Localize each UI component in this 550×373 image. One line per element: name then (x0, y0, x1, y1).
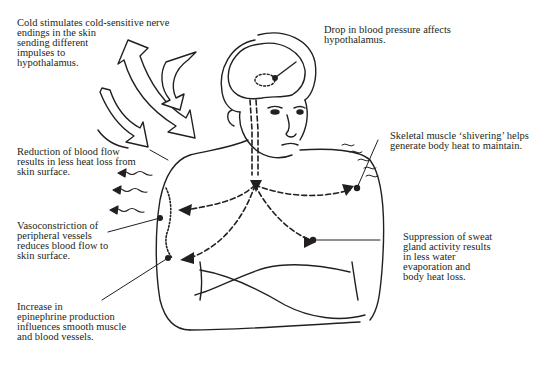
label-vasoconstriction: Vasoconstriction of peripheral vessels r… (17, 221, 108, 261)
label-shivering: Skeletal muscle ‘shivering’ helps genera… (390, 131, 529, 151)
torso-icon (156, 140, 383, 330)
label-reduced-blood-flow: Reduction of blood flow results in less … (17, 147, 136, 177)
nerve-path-icon (186, 100, 350, 258)
vessel-path-icon (166, 188, 172, 258)
label-blood-pressure: Drop in blood pressure affects hypothala… (324, 25, 451, 45)
hypothalamus-oval-icon (255, 74, 275, 86)
label-cold-stimulus: Cold stimulates cold-sensitive nerve end… (17, 18, 170, 68)
shiver-lines-icon (342, 144, 378, 177)
label-sweat-suppression: Suppression of sweat gland activity resu… (403, 232, 492, 282)
label-epinephrine: Increase in epinephrine production influ… (17, 302, 126, 342)
head-icon (221, 33, 316, 158)
